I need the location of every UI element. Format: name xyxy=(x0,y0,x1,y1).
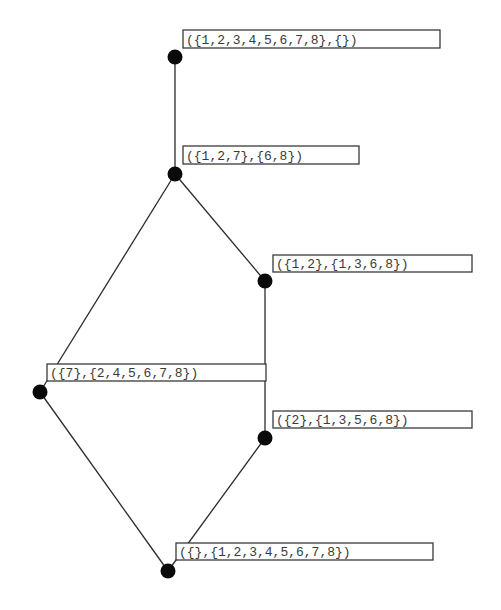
label-text: ({1,2},{1,3,6,8}) xyxy=(276,257,409,272)
node-label-n4: ({7},{2,4,5,6,7,8}) xyxy=(47,364,266,381)
node-label-n2: ({1,2,7},{6,8}) xyxy=(183,146,359,164)
nodes-layer xyxy=(33,50,273,579)
node-label-n1: ({1,2,3,4,5,6,7,8},{}) xyxy=(183,30,440,48)
label-text: ({1,2,3,4,5,6,7,8},{}) xyxy=(186,33,358,48)
labels-layer: ({1,2,3,4,5,6,7,8},{})({1,2,7},{6,8})({1… xyxy=(47,30,472,560)
node-n6 xyxy=(161,564,176,579)
label-text: ({2},{1,3,5,6,8}) xyxy=(276,413,409,428)
node-n4 xyxy=(33,385,48,400)
label-text: ({1,2,7},{6,8}) xyxy=(186,149,303,164)
node-n3 xyxy=(258,274,273,289)
node-label-n5: ({2},{1,3,5,6,8}) xyxy=(273,411,472,428)
node-n5 xyxy=(258,431,273,446)
label-text: ({},{1,2,3,4,5,6,7,8}) xyxy=(179,545,351,560)
edge-n2-n4 xyxy=(40,174,175,392)
node-label-n3: ({1,2},{1,3,6,8}) xyxy=(273,255,472,272)
node-label-n6: ({},{1,2,3,4,5,6,7,8}) xyxy=(176,543,433,560)
node-n1 xyxy=(168,50,183,65)
node-n2 xyxy=(168,167,183,182)
label-text: ({7},{2,4,5,6,7,8}) xyxy=(50,366,198,381)
concept-lattice-diagram: ({1,2,3,4,5,6,7,8},{})({1,2,7},{6,8})({1… xyxy=(0,0,501,610)
edges-layer xyxy=(40,57,265,571)
edge-n2-n3 xyxy=(175,174,265,281)
edge-n4-n6 xyxy=(40,392,168,571)
